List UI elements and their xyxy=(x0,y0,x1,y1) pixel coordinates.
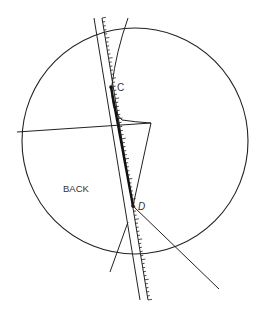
label-back: BACK xyxy=(63,183,90,194)
line-apex-to-d xyxy=(133,123,151,206)
arc-curve xyxy=(112,18,151,123)
diagram-canvas: C D BACK xyxy=(0,0,266,314)
line-lower-left xyxy=(110,222,128,272)
label-point-c: C xyxy=(117,82,124,93)
point-c-marker xyxy=(109,85,113,89)
label-point-d: D xyxy=(138,201,145,212)
line-d-to-lower-right xyxy=(133,206,219,289)
line-left-to-apex xyxy=(17,123,151,132)
